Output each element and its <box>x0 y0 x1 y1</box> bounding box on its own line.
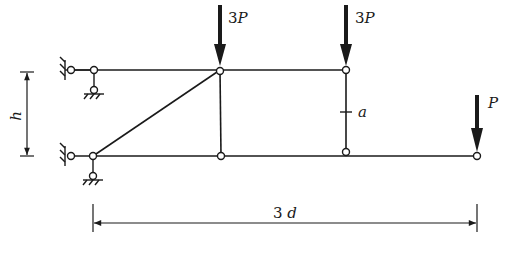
top-left-wall-support <box>60 57 94 80</box>
joint-node <box>217 68 224 75</box>
top-roller-support <box>84 70 104 99</box>
svg-text:3P: 3P <box>228 9 249 27</box>
joint-node <box>474 153 481 160</box>
load-arrow-3: P <box>471 94 499 152</box>
bottom-roller-support <box>83 156 103 185</box>
pin-node <box>91 87 98 94</box>
height-label: h <box>7 111 25 121</box>
load-arrow-2: 3P <box>340 5 376 66</box>
pin-node <box>68 67 75 74</box>
pin-node <box>91 67 98 74</box>
pin-node <box>68 153 75 160</box>
pin-node <box>90 173 97 180</box>
joint-node <box>343 67 350 74</box>
member-a-label: a <box>358 103 367 121</box>
span-label: 3 d <box>273 204 297 222</box>
joint-node <box>343 149 350 156</box>
bottom-left-wall-support <box>60 143 65 166</box>
svg-text:3P: 3P <box>355 9 376 27</box>
load-arrow-1: 3P <box>214 5 249 66</box>
svg-text:P: P <box>487 94 499 112</box>
truss-diagram: a 3P <box>0 0 508 253</box>
joint-node <box>218 153 225 160</box>
pin-node <box>90 153 97 160</box>
diagonal-member <box>93 70 220 156</box>
vertical-member-1 <box>220 70 221 156</box>
